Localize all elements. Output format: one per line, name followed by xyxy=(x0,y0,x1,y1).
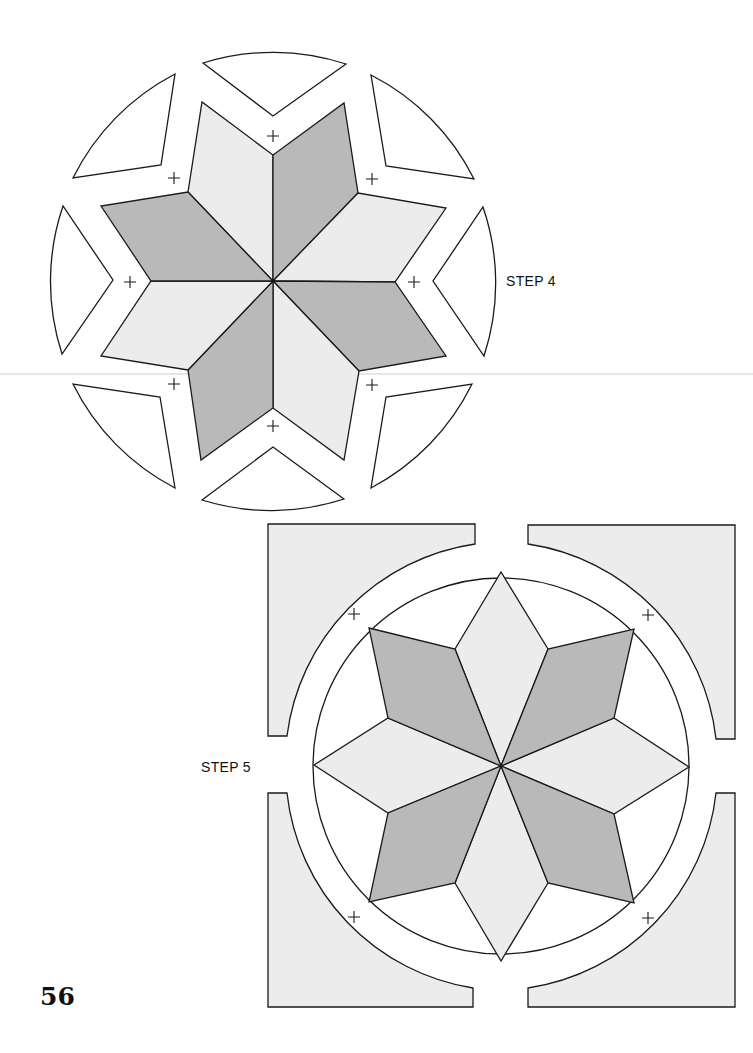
step4-label: STEP 4 xyxy=(506,273,556,289)
corner-bottom-left xyxy=(73,384,175,488)
step5-label: STEP 5 xyxy=(201,759,251,775)
diagram-canvas xyxy=(0,0,753,1053)
corner-top-right xyxy=(371,75,474,179)
wedge-left xyxy=(50,206,113,354)
page-number: 56 xyxy=(40,982,75,1011)
wedge-bottom xyxy=(202,447,344,511)
corner-bottom-right xyxy=(371,384,472,488)
corner-top-left xyxy=(73,74,175,178)
step5-diagram xyxy=(268,524,735,1007)
wedge-right xyxy=(433,207,496,356)
step4-diagram xyxy=(50,52,495,510)
wedge-top xyxy=(203,52,346,116)
